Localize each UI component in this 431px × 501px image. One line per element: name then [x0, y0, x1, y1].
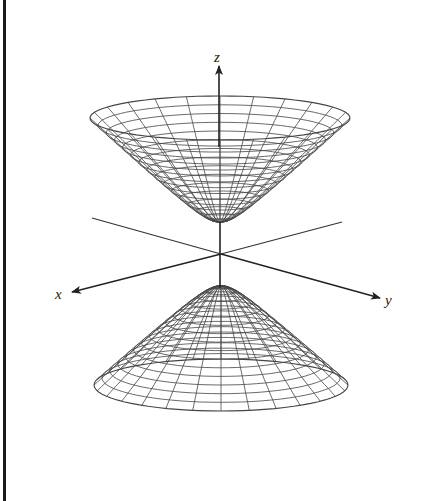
hyperboloid-figure: z x y [0, 0, 431, 501]
x-axis-negative [92, 218, 221, 254]
y-axis-label: y [383, 292, 392, 308]
axes-back [92, 218, 342, 254]
x-axis-label: x [54, 286, 62, 302]
y-axis-negative [221, 222, 342, 254]
y-axis-positive [221, 254, 380, 298]
lower-sheet [94, 286, 348, 411]
upper-sheet [90, 96, 350, 222]
x-axis-positive [72, 254, 221, 292]
z-axis-label: z [213, 49, 220, 65]
figure-frame: z x y [0, 0, 431, 501]
